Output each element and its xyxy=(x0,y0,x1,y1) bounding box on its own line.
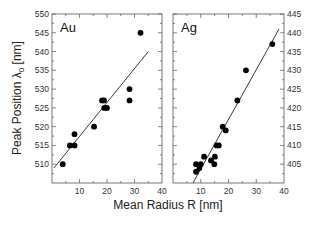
y-axis-label-main: Peak Position λ xyxy=(10,72,24,155)
panel-label-ag: Ag xyxy=(181,20,197,35)
x-tick-label: 10 xyxy=(196,186,206,196)
x-tick-label: 10 xyxy=(75,186,85,196)
x-tick-label: 30 xyxy=(130,186,140,196)
data-point xyxy=(72,143,78,149)
y-tick-label: 415 xyxy=(287,122,301,132)
x-tick-label: 20 xyxy=(224,186,234,196)
y-tick-label: 550 xyxy=(35,9,49,19)
y-tick-label: 430 xyxy=(287,65,301,75)
data-point xyxy=(91,124,97,130)
y-tick-label: 410 xyxy=(287,140,301,150)
y-tick-label: 520 xyxy=(35,122,49,132)
data-point xyxy=(196,165,202,171)
data-point xyxy=(212,154,218,160)
y-tick-label: 510 xyxy=(35,159,49,169)
chart-figure: 10203040510515520525530535540545550 1020… xyxy=(0,0,317,225)
y-tick-label: 445 xyxy=(287,9,301,19)
y-tick-label: 545 xyxy=(35,28,49,38)
data-point xyxy=(269,41,275,47)
fit-line xyxy=(54,52,148,168)
y-tick-label: 440 xyxy=(287,28,301,38)
y-tick-label: 525 xyxy=(35,103,49,113)
panel-au: 10203040510515520525530535540545550 xyxy=(35,9,167,196)
data-point xyxy=(72,131,78,137)
y-tick-label: 540 xyxy=(35,47,49,57)
data-point xyxy=(201,154,207,160)
data-point xyxy=(127,86,133,92)
plot-frame xyxy=(52,14,162,183)
data-point xyxy=(243,67,249,73)
y-axis-label: Peak Position λ0 [nm] xyxy=(10,41,26,155)
x-tick-label: 40 xyxy=(157,186,167,196)
y-tick-label: 425 xyxy=(287,84,301,94)
y-tick-label: 420 xyxy=(287,103,301,113)
x-tick-label: 20 xyxy=(102,186,112,196)
data-point xyxy=(60,161,66,167)
data-point xyxy=(104,105,110,111)
plot-frame xyxy=(173,14,284,183)
y-tick-label: 515 xyxy=(35,140,49,150)
x-axis-label: Mean Radius R [nm] xyxy=(113,198,222,212)
data-point xyxy=(127,97,133,103)
y-tick-label: 530 xyxy=(35,84,49,94)
data-point xyxy=(211,161,217,167)
fit-line xyxy=(193,29,279,183)
y-tick-label: 435 xyxy=(287,47,301,57)
y-tick-label: 405 xyxy=(287,159,301,169)
y-tick-label: 535 xyxy=(35,65,49,75)
x-tick-label: 40 xyxy=(279,186,289,196)
data-point xyxy=(101,97,107,103)
panel-ag: 10203040405410415420425430435440445 xyxy=(173,9,301,196)
panel-label-au: Au xyxy=(60,20,76,35)
data-point xyxy=(216,143,222,149)
data-point xyxy=(138,30,144,36)
data-point xyxy=(234,97,240,103)
data-point xyxy=(223,128,229,134)
y-axis-label-unit: [nm] xyxy=(10,41,24,68)
x-tick-label: 30 xyxy=(252,186,262,196)
